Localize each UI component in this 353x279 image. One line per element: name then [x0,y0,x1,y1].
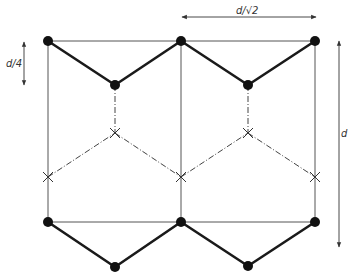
atom-dot [243,261,253,271]
atom-dot [176,217,186,227]
atom-dot [310,36,320,46]
quarter-label: d/4 [6,58,22,69]
height-label: d [341,128,348,139]
atom-dot [110,80,120,90]
width-label: d/√2 [236,5,258,16]
crystal-structure-diagram: d/√2 d/4 d [0,0,353,279]
atom-dot [43,217,53,227]
atom-dot [243,80,253,90]
atom-dot [110,262,120,272]
atom-dot [176,36,186,46]
atom-dot [310,217,320,227]
atom-dot [43,36,53,46]
